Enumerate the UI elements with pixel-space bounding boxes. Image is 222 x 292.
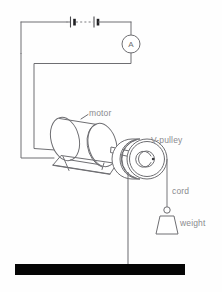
circuit-wiring: A xyxy=(21,17,140,159)
ground-bar xyxy=(15,264,185,275)
label-cord: cord xyxy=(172,187,189,196)
physics-diagram-figure: A xyxy=(0,0,222,292)
pulley-center-dot xyxy=(152,158,154,160)
pulley-disc-outer xyxy=(127,139,167,179)
leader-line-motor xyxy=(81,115,88,120)
weight-hook-loop xyxy=(164,207,170,213)
wire-battery-to-motor xyxy=(21,54,54,159)
v-pulley xyxy=(112,139,167,179)
battery-symbol xyxy=(67,17,131,28)
label-v-pulley: V-pulley xyxy=(151,136,182,145)
wire-ammeter-to-motor xyxy=(34,53,131,150)
diagram-canvas: A xyxy=(0,0,222,292)
ammeter: A xyxy=(122,35,140,53)
ammeter-label: A xyxy=(128,40,134,49)
label-weight: weight xyxy=(180,219,205,228)
label-leader-lines xyxy=(81,115,88,120)
label-motor: motor xyxy=(89,109,111,118)
weight-body xyxy=(156,216,178,234)
